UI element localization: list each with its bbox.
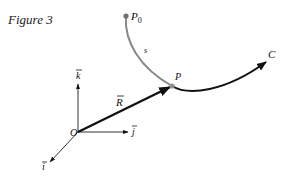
label-j: j xyxy=(130,126,135,137)
position-vector-r xyxy=(78,87,170,132)
curve-c xyxy=(172,62,266,91)
label-i: i xyxy=(42,161,45,172)
vector-curve-diagram: P0 s P C R O k j i xyxy=(0,0,295,177)
label-c: C xyxy=(268,48,276,60)
label-r: R xyxy=(115,96,123,108)
label-o: O xyxy=(70,127,77,138)
point-p xyxy=(169,83,174,88)
label-p0: P0 xyxy=(130,10,142,25)
arc-s xyxy=(126,16,172,86)
label-k: k xyxy=(76,70,81,81)
label-s: s xyxy=(144,46,147,55)
point-p0 xyxy=(123,13,128,18)
label-p: P xyxy=(174,71,181,82)
